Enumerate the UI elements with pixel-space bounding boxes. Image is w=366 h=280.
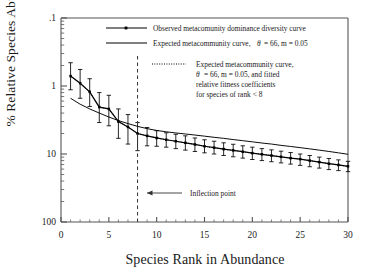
data-point-marker	[347, 165, 350, 168]
data-point-marker	[175, 140, 178, 143]
x-tick-label: 0	[59, 230, 64, 240]
data-point-marker	[98, 106, 101, 109]
y-tick-label: 100	[42, 217, 57, 227]
data-point-marker	[222, 148, 225, 151]
expected-curve	[71, 98, 348, 154]
data-point-marker	[213, 146, 216, 149]
legend-label-expected: Expected metacommunity curve,	[153, 39, 251, 48]
data-point-marker	[184, 142, 187, 145]
data-point-marker	[127, 126, 130, 129]
data-point-marker	[308, 159, 311, 162]
legend-label-fitted-line3: relative fitness coefficients	[196, 80, 276, 89]
data-point-marker	[117, 120, 120, 123]
chart-plot: 100101.1051015202530 Observed metacomuni…	[0, 0, 366, 280]
legend-label-fitted-line4: for species of rank < 8	[196, 90, 263, 99]
data-point-marker	[194, 143, 197, 146]
legend-label-observed: Observed metacomunity dominance diversit…	[153, 24, 306, 33]
data-point-marker	[108, 108, 111, 111]
data-point-marker	[242, 150, 245, 153]
data-point-marker	[261, 153, 264, 156]
legend-theta-symbol-fitted: θ	[196, 70, 200, 79]
data-point-marker	[146, 135, 149, 138]
legend-theta-symbol: θ	[257, 39, 261, 48]
legend-layer: Observed metacomunity dominance diversit…	[106, 24, 308, 99]
data-point-marker	[155, 137, 158, 140]
x-tick-label: 30	[343, 230, 353, 240]
figure-container: % Relative Species Abundance Species Ran…	[0, 0, 366, 280]
x-tick-label: 10	[152, 230, 162, 240]
x-tick-label: 20	[248, 230, 258, 240]
data-point-marker	[280, 156, 283, 159]
data-point-marker	[289, 157, 292, 160]
data-point-marker	[232, 149, 235, 152]
data-point-marker	[328, 162, 331, 165]
data-point-marker	[165, 139, 168, 142]
x-tick-label: 5	[106, 230, 111, 240]
data-point-marker	[69, 75, 72, 78]
data-point-marker	[270, 154, 273, 157]
inflection-label: Inflection point	[190, 189, 237, 198]
legend-label-fitted-line2: = 66, m = 0.05, and fitted	[204, 70, 280, 79]
data-point-marker	[337, 164, 340, 167]
data-point-marker	[299, 158, 302, 161]
data-point-marker	[88, 91, 91, 94]
legend-label-fitted-line1: Expected metacommunity curve,	[196, 60, 294, 69]
data-point-marker	[79, 82, 82, 85]
y-tick-label: 10	[47, 149, 57, 159]
legend-params-expected: = 66, m = 0.05	[264, 39, 308, 48]
y-tick-label: 1	[51, 81, 56, 91]
inflection-arrow-head	[147, 190, 153, 195]
data-point-marker	[251, 152, 254, 155]
legend-marker-square	[125, 27, 128, 30]
data-point-marker	[318, 161, 321, 164]
x-tick-label: 25	[295, 230, 305, 240]
y-tick-label: .1	[49, 13, 56, 23]
data-point-marker	[203, 145, 206, 148]
x-tick-label: 15	[200, 230, 210, 240]
